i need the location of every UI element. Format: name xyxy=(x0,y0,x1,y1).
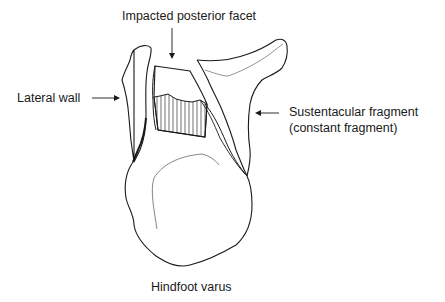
impacted-hatched-region xyxy=(154,94,207,137)
arrow-sustentacular xyxy=(255,110,279,116)
label-sustentacular-fragment: Sustentacular fragment xyxy=(289,105,418,120)
arrow-lateral-wall xyxy=(92,95,120,101)
label-constant-fragment: (constant fragment) xyxy=(289,121,397,136)
label-lateral-wall: Lateral wall xyxy=(17,91,80,106)
figure-title: Hindfoot varus xyxy=(151,280,232,295)
calcaneus-illustration xyxy=(0,0,445,302)
sustentacular-fragment xyxy=(197,39,287,176)
arrow-posterior-facet xyxy=(169,28,175,59)
label-impacted-posterior-facet: Impacted posterior facet xyxy=(122,9,256,24)
lateral-wall-fragment xyxy=(122,46,151,162)
internal-contour xyxy=(152,154,219,229)
calcaneal-body xyxy=(125,162,252,266)
